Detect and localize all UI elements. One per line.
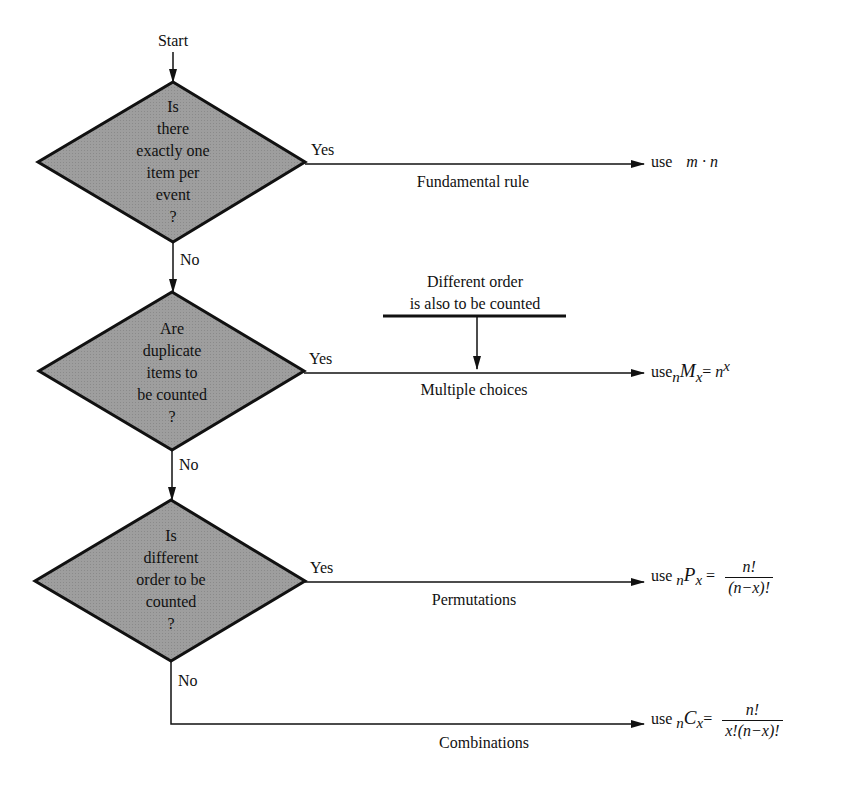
fraction: n! (n−x)! [725, 557, 773, 598]
equals-sign: = [703, 710, 712, 727]
decision-2-no-label: No [179, 456, 199, 473]
sub-left-n: n [676, 715, 684, 731]
sub-left-n: n [672, 369, 680, 385]
decision-2-line-3: items to [146, 364, 197, 381]
decision-1-yes-label: Yes [311, 141, 334, 158]
symbol-M: M [680, 360, 696, 381]
decision-1-line-6: ? [169, 208, 176, 225]
result-multiple-choices: usenMx= nx [651, 358, 730, 386]
decision-1-no-label: No [180, 251, 200, 268]
decision-2-line-1: Are [160, 320, 184, 337]
decision-1-line-5: event [156, 186, 191, 203]
numerator: n! [725, 557, 773, 578]
use-prefix: use [651, 710, 672, 727]
decision-2-line-2: duplicate [143, 342, 202, 360]
use-prefix: use [651, 153, 672, 170]
note-line-2: is also to be counted [410, 295, 541, 312]
equals-sign: = [706, 567, 715, 584]
use-prefix: use [651, 567, 672, 584]
symbol-P: P [684, 564, 696, 585]
combinations-label: Combinations [439, 734, 529, 751]
rhs-exponent-x: x [723, 358, 730, 374]
result-combinations: use nCx= n! x!(n−x)! [651, 700, 783, 741]
flowchart-canvas: Start Is there exactly one item per even… [0, 0, 842, 787]
permutations-label: Permutations [432, 591, 516, 608]
decision-1-line-1: Is [167, 98, 179, 115]
fundamental-rule-label: Fundamental rule [417, 173, 529, 190]
use-prefix: use [651, 363, 672, 380]
multiple-choices-label: Multiple choices [420, 381, 527, 399]
denominator: (n−x)! [725, 578, 773, 598]
decision-2-line-5: ? [168, 408, 175, 425]
result-permutations: use nPx = n! (n−x)! [651, 557, 773, 598]
decision-3-line-4: counted [146, 593, 197, 610]
decision-3-line-1: Is [165, 527, 177, 544]
decision-1-line-2: there [157, 120, 189, 137]
counting-rules-flowchart: Start Is there exactly one item per even… [0, 0, 842, 787]
fraction: n! x!(n−x)! [722, 700, 782, 741]
decision-2-yes-label: Yes [309, 350, 332, 367]
sub-left-n: n [676, 572, 684, 588]
note-line-1: Different order [427, 273, 524, 290]
start-label: Start [158, 32, 189, 49]
decision-3-yes-label: Yes [310, 559, 333, 576]
decision-3-no-label: No [178, 672, 198, 689]
decision-1-line-4: item per [147, 164, 201, 182]
numerator: n! [722, 700, 782, 721]
decision-3-line-5: ? [167, 615, 174, 632]
result-fundamental-rule: use m · n [651, 153, 718, 171]
decision-3-line-3: order to be [136, 571, 205, 588]
equals-sign: = [702, 363, 711, 380]
symbol-C: C [684, 707, 697, 728]
denominator: x!(n−x)! [722, 721, 782, 741]
sub-right-x: x [695, 572, 702, 588]
decision-1-line-3: exactly one [136, 142, 209, 160]
formula-m-times-n: m · n [686, 153, 718, 170]
decision-2-line-4: be counted [137, 386, 207, 403]
decision-3-line-2: different [144, 549, 199, 566]
decision-3-no-arrow [171, 661, 644, 724]
